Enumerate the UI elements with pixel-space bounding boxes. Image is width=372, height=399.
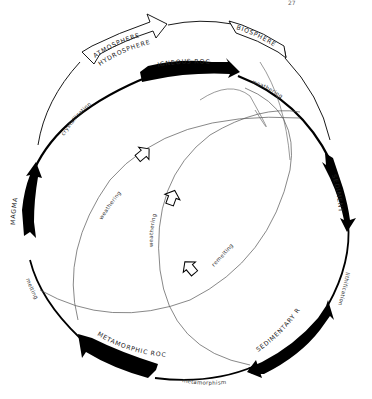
outer-arc-right (285, 58, 330, 140)
outer-arc-top (168, 21, 232, 25)
hollow-arrow-remelting-icon (179, 257, 201, 279)
sedimentary-rocks-label: SEDIMENTARY ROCKS (0, 0, 301, 353)
cycle-arc-metamorphism (155, 366, 255, 380)
weathering-inner-label-1: weathering (98, 190, 123, 221)
magma-label: MAGMA (9, 196, 19, 225)
magma-arrow (22, 162, 42, 238)
biosphere-label: BIOSPHERE (236, 23, 278, 48)
lithification-label: lithification (337, 272, 351, 307)
sediments-label: SEDIMENTS (0, 0, 345, 213)
rock-cycle-diagram: 27 ATMOSPHERE HYDROSPHERE BIOSPHERE IGNE… (0, 0, 372, 399)
inner-path-remelting (40, 88, 292, 313)
sedimentary-rocks-arrow (248, 300, 334, 374)
remelting-label: remelting (210, 242, 235, 268)
inner-path-weathering-1 (73, 117, 300, 320)
weathering-inner-label-2: weathering (148, 213, 158, 248)
cycle-arc-melting (30, 260, 80, 338)
weathering-label: weathering (252, 78, 285, 100)
inner-path-connector (200, 89, 266, 127)
cycle-arc-crystallization (34, 76, 150, 170)
page-number: 27 (288, 0, 296, 6)
crystallization-label: crystallization (60, 101, 92, 137)
